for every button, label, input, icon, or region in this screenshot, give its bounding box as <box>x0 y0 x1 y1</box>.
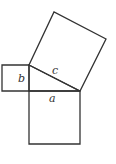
label-c: c <box>52 64 58 77</box>
square-on-c <box>29 12 106 91</box>
label-a: a <box>49 92 56 105</box>
pythagoras-diagram: b c a <box>0 0 116 164</box>
label-b: b <box>18 72 25 85</box>
